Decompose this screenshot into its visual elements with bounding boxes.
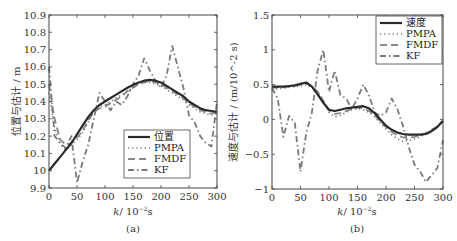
legend-b: 速度PMPAFMDFKF: [376, 16, 442, 64]
x-tick-label: 300: [207, 191, 226, 202]
x-tick-label: 0: [269, 192, 275, 203]
legend-label: FMDF: [154, 153, 186, 164]
x-tick-label: 150: [348, 192, 367, 203]
y-tick-label: 10.2: [24, 131, 46, 142]
x-tick-label: 50: [294, 192, 307, 203]
x-tick-label: 250: [405, 192, 424, 203]
legend-label: 位置: [154, 130, 174, 142]
legend-label: FMDF: [406, 39, 438, 50]
y-tick-label: 10.3: [24, 113, 46, 124]
y-tick-label: 1: [263, 44, 269, 55]
legend-label: KF: [154, 164, 168, 175]
series-速度-line: [272, 83, 443, 135]
legend-label: PMPA: [406, 28, 437, 39]
legend-label: PMPA: [154, 142, 185, 153]
x-tick-label: 200: [151, 191, 170, 202]
y-tick-label: 10.8: [24, 27, 46, 38]
series-layer-b: [272, 50, 443, 182]
x-tick-label: 200: [376, 192, 395, 203]
caption-b: (b): [350, 223, 364, 234]
y-tick-label: 10.6: [24, 61, 46, 72]
y-tick-label: 10.9: [24, 10, 46, 21]
x-tick-label: 0: [46, 191, 52, 202]
y-tick-label: 0: [263, 114, 269, 125]
y-tick-label: 10.1: [24, 148, 46, 159]
y-tick-label: −0.5: [245, 149, 269, 160]
x-tick-label: 50: [71, 191, 84, 202]
y-tick-label: 1.5: [253, 10, 269, 21]
x-axis-label-a: k/ 10−2s: [113, 205, 152, 217]
y-tick-label: 0.5: [253, 79, 269, 90]
x-axis-label-b: k/ 10−2s: [337, 205, 376, 217]
y-tick-label: 9.9: [30, 183, 46, 194]
x-tick-label: 100: [95, 191, 114, 202]
x-tick-label: 250: [179, 191, 198, 202]
y-tick-label: −1: [254, 184, 269, 195]
series-KF-line: [272, 50, 443, 182]
caption-a: (a): [126, 223, 140, 234]
chart-panel-b: 050100150200250300−1−0.500.511.5 速度与估计 /…: [227, 10, 453, 235]
x-tick-label: 150: [123, 191, 142, 202]
y-tick-label: 10.7: [24, 44, 46, 55]
y-tick-label: 10.4: [24, 96, 46, 107]
y-tick-label: 10.5: [24, 79, 46, 90]
y-tick-label: 10: [33, 165, 46, 176]
x-tick-label: 300: [433, 192, 452, 203]
series-FMDF-line: [272, 83, 443, 137]
figure: 0501001502002503009.91010.110.210.310.41…: [0, 0, 457, 241]
series-PMPA-line: [272, 85, 443, 142]
x-tick-label: 100: [319, 192, 338, 203]
legend-a: 位置PMPAFMDFKF: [124, 130, 190, 178]
legend-label: KF: [406, 50, 420, 61]
legend-label: 速度: [406, 16, 426, 28]
chart-panel-a: 0501001502002503009.91010.110.210.310.41…: [10, 10, 227, 235]
y-axis-label-a: 位置与估计 / m: [10, 66, 22, 136]
y-axis-label-b: 速度与估计 / (m/10^-2 s): [227, 42, 239, 162]
